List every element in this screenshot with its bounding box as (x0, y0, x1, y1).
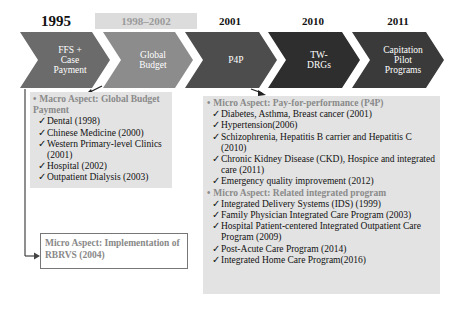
item-text: Post-Acute Care Program (2014) (221, 244, 346, 254)
list-item: ✓Family Physician Integrated Care Progra… (207, 210, 436, 221)
bullet-icon: • (207, 98, 210, 108)
item-text: Western Primary-level Clinics (2001) (47, 139, 162, 160)
integrated-heading: •Micro Aspect: Related integrated progra… (207, 188, 436, 199)
check-icon: ✓ (212, 199, 221, 210)
heading-text: Macro Aspect: Global Budget Payment (33, 94, 160, 115)
list-item: ✓Integrated Delivery Systems (IDS) (1999… (207, 199, 436, 210)
check-icon: ✓ (212, 176, 221, 187)
list-item: ✓Chronic Kidney Disease (CKD), Hospice a… (207, 154, 436, 176)
list-item: ✓Chinese Medicine (2000) (33, 128, 169, 139)
p4p-heading: •Micro Aspect: Pay-for-performance (P4P) (207, 98, 436, 109)
check-icon: ✓ (212, 221, 221, 232)
check-icon: ✓ (212, 255, 221, 266)
bullet-icon: • (33, 94, 36, 104)
check-icon: ✓ (212, 210, 221, 221)
item-text: Integrated Home Care Program(2016) (221, 255, 366, 265)
macro-global-budget-box: •Macro Aspect: Global Budget Payment ✓De… (30, 92, 172, 188)
item-text: Dental (1998) (47, 116, 100, 126)
check-icon: ✓ (38, 116, 47, 127)
check-icon: ✓ (38, 161, 47, 172)
heading-text: Micro Aspect: Related integrated program (213, 188, 386, 198)
item-text: Chronic Kidney Disease (CKD), Hospice an… (221, 154, 435, 175)
list-item: ✓Outpatient Dialysis (2003) (33, 172, 169, 183)
item-text: Family Physician Integrated Care Program… (221, 210, 411, 220)
item-text: Hospital (2002) (47, 161, 107, 171)
item-text: Outpatient Dialysis (2003) (47, 172, 148, 182)
check-icon: ✓ (212, 154, 221, 165)
item-text: Hypertension(2006) (221, 120, 298, 130)
list-item: ✓Schizophrenia, Hepatitis B carrier and … (207, 132, 436, 154)
item-text: Schizophrenia, Hepatitis B carrier and H… (221, 132, 412, 153)
heading-text: Micro Aspect: Pay-for-performance (P4P) (213, 98, 383, 108)
item-text: Emergency quality improvement (2012) (221, 176, 374, 186)
check-icon: ✓ (38, 172, 47, 183)
check-icon: ✓ (212, 120, 221, 131)
check-icon: ✓ (38, 128, 47, 139)
list-item: ✓Western Primary-level Clinics (2001) (33, 139, 169, 161)
rbrvs-box: Micro Aspect: Implementation of RBRVS (2… (40, 233, 188, 269)
list-item: ✓Post-Acute Care Program (2014) (207, 244, 436, 255)
item-text: Integrated Delivery Systems (IDS) (1999) (221, 199, 381, 209)
check-icon: ✓ (38, 139, 47, 150)
list-item: ✓Hospital (2002) (33, 161, 169, 172)
list-item: ✓Dental (1998) (33, 116, 169, 127)
list-item: ✓Hypertension(2006) (207, 120, 436, 131)
list-item: ✓Hospital Patient-centered Integrated Ou… (207, 221, 436, 243)
check-icon: ✓ (212, 244, 221, 255)
list-item: ✓Integrated Home Care Program(2016) (207, 255, 436, 266)
check-icon: ✓ (212, 132, 221, 143)
macro-heading: •Macro Aspect: Global Budget Payment (33, 94, 169, 116)
item-text: Chinese Medicine (2000) (47, 128, 144, 138)
bullet-icon: • (207, 188, 210, 198)
item-text: Hospital Patient-centered Integrated Out… (221, 221, 421, 242)
check-icon: ✓ (212, 109, 221, 120)
list-item: ✓Emergency quality improvement (2012) (207, 176, 436, 187)
item-text: Diabetes, Asthma, Breast cancer (2001) (221, 109, 372, 119)
micro-aspect-box: •Micro Aspect: Pay-for-performance (P4P)… (203, 96, 440, 294)
list-item: ✓Diabetes, Asthma, Breast cancer (2001) (207, 109, 436, 120)
